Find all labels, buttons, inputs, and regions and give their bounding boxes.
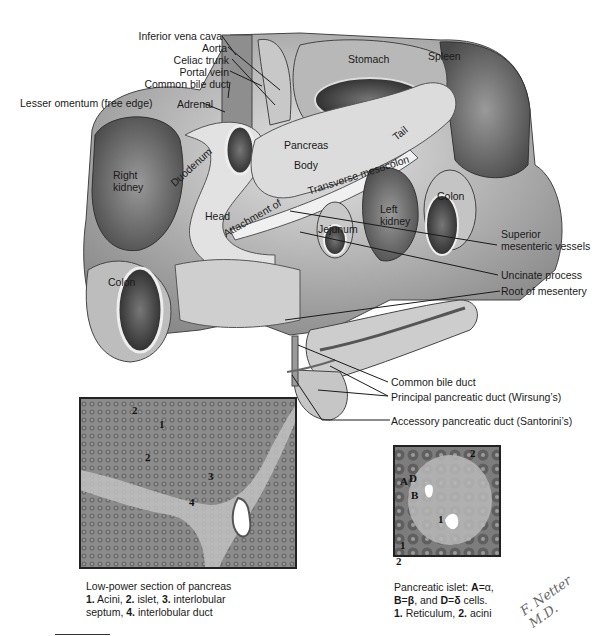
label-celiac-trunk: Celiac trunk [174,54,229,66]
label-adrenal: Adrenal [177,98,213,110]
hist-marker-2a: 2 [132,404,138,416]
islet-marker-A: A [400,475,408,487]
islet-caption-line2: B=β, and D=δ cells. [394,594,524,607]
low-power-caption-line3: septum, 4. interlobular duct [86,606,306,619]
hist-marker-1: 1 [159,418,165,430]
label-left-kidney-2: kidney [380,215,410,227]
label-colon-right: Colon [108,276,135,288]
label-left-kidney-1: Left [380,203,398,215]
label-head: Head [205,210,230,222]
islet-caption-line3: 1. Reticulum, 2. acini [394,607,524,620]
label-inferior-vena-cava: Inferior vena cava [139,30,222,42]
label-smv-line2: mesenteric vessels [501,240,590,252]
islet-marker-2b: 2 [396,555,402,567]
label-common-bile-duct: Common bile duct [144,78,229,90]
label-right-kidney-2: kidney [113,181,143,193]
label-body: Body [294,159,318,171]
label-common-bile-duct-2: Common bile duct [391,376,476,388]
hist-marker-4: 4 [189,496,195,508]
islet-caption: Pancreatic islet: A=α, B=β, and D=δ cell… [394,581,524,620]
islet-marker-B: B [411,489,418,501]
label-colon-left: Colon [437,190,464,202]
hist-marker-3: 3 [208,470,214,482]
label-santorini-duct: Accessory pancreatic duct (Santorini’s) [391,415,572,427]
low-power-caption-line1: Low-power section of pancreas [86,580,306,593]
low-power-caption: Low-power section of pancreas 1. Acini, … [86,580,306,619]
label-stomach: Stomach [348,53,389,65]
footnote-rule [55,634,110,635]
low-power-histology-panel [79,397,297,569]
label-root-of-mesentery: Root of mesentery [501,285,587,297]
hist-marker-2b: 2 [145,451,151,463]
label-aorta: Aorta [202,42,227,54]
label-portal-vein: Portal vein [179,66,229,78]
islet-marker-1a: 1 [438,513,444,525]
label-spleen: Spleen [428,50,461,62]
islet-histology-panel [393,445,501,557]
label-right-kidney-1: Right [113,169,138,181]
islet-marker-2a: 2 [470,447,476,459]
label-jejunum: Jejunum [318,223,358,235]
label-lesser-omentum: Lesser omentum (free edge) [20,97,152,109]
islet-marker-1b: 1 [400,539,406,551]
label-pancreas: Pancreas [284,139,328,151]
label-wirsung-duct: Principal pancreatic duct (Wirsung’s) [391,391,561,403]
low-power-caption-line2: 1. Acini, 2. islet, 3. interlobular [86,593,306,606]
label-smv-line1: Superior [501,228,541,240]
islet-marker-D: D [409,472,417,484]
islet-caption-line1: Pancreatic islet: A=α, [394,581,524,594]
label-uncinate-process: Uncinate process [501,269,582,281]
